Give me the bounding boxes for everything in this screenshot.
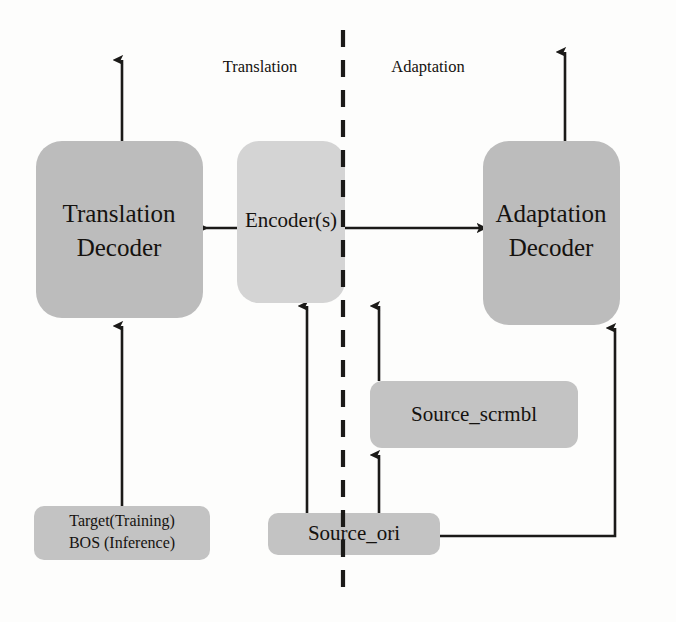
- side-label-translation: Translation: [223, 57, 298, 76]
- target-bos-label-line2: BOS (Inference): [69, 534, 175, 552]
- source-scrmbl-label: Source_scrmbl: [411, 402, 537, 426]
- adaptation-decoder-label-line1: Adaptation: [495, 200, 607, 227]
- translation-decoder-label-line2: Decoder: [77, 234, 162, 261]
- node-source-scrmbl: Source_scrmbl: [370, 381, 578, 448]
- target-bos-label-line1: Target(Training): [69, 512, 175, 530]
- node-adaptation-decoder: Adaptation Decoder: [483, 141, 620, 325]
- node-translation-decoder: Translation Decoder: [36, 141, 203, 318]
- translation-decoder-label-line1: Translation: [63, 200, 176, 227]
- node-encoder: Encoder(s): [237, 141, 345, 303]
- node-source-ori: Source_ori: [268, 513, 440, 555]
- adaptation-decoder-label-line2: Decoder: [509, 234, 594, 261]
- node-target-bos: Target(Training) BOS (Inference): [34, 506, 210, 560]
- encoder-label: Encoder(s): [245, 208, 337, 232]
- diagram-canvas: Translation Decoder Encoder(s) Adaptatio…: [0, 0, 676, 622]
- side-label-adaptation: Adaptation: [391, 57, 464, 76]
- source-ori-label: Source_ori: [308, 521, 400, 545]
- translation-decoder-box: [36, 141, 203, 318]
- architecture-diagram: Translation Decoder Encoder(s) Adaptatio…: [0, 0, 676, 622]
